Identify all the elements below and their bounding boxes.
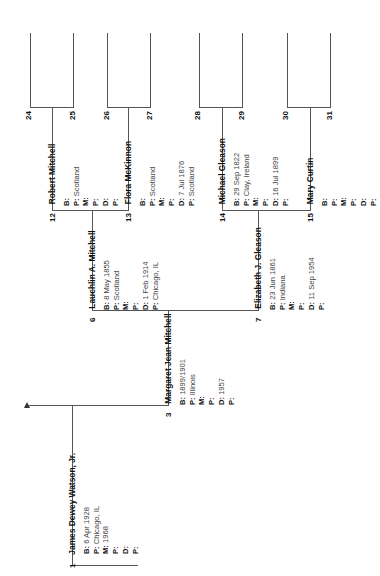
person-3[interactable]: 3 Margaret Jean Mitchell B: 1899/1901 P:… xyxy=(157,313,236,417)
slot-number: 30 xyxy=(281,111,290,120)
person-15[interactable]: 15 Mary Curtin B: P: M: P: D: P: xyxy=(299,158,378,222)
person-name: Margaret Jean Mitchell xyxy=(163,313,173,403)
slot-number: 29 xyxy=(237,111,246,120)
person-name: Elizabeth J. Gleason xyxy=(253,227,263,308)
person-name: Lauchlin A. Mitchell xyxy=(87,230,97,308)
line xyxy=(107,33,108,108)
person-name: Mary Curtin xyxy=(305,158,315,205)
person-14[interactable]: 14 Michael Gleason B: 29 Sep 1822 P: Cla… xyxy=(211,138,290,222)
person-1[interactable]: 1 James Dewey Watson, Jr. B: 6 Apr 1928 … xyxy=(61,453,140,568)
line xyxy=(73,33,74,108)
person-13[interactable]: 13 Flora McKinnon B: P: Scotland M: P: D… xyxy=(117,141,196,222)
line xyxy=(287,33,288,108)
line xyxy=(107,107,151,108)
slot-number: 24 xyxy=(24,111,33,120)
line xyxy=(330,33,331,108)
person-12[interactable]: 12 Robert Mitchell B: P: Scotland M: P: … xyxy=(41,144,120,222)
person-name: James Dewey Watson, Jr. xyxy=(67,453,77,555)
line xyxy=(242,33,243,108)
line xyxy=(150,33,151,108)
slot-number: 31 xyxy=(325,111,334,120)
person-7[interactable]: 7 Elizabeth J. Gleason B: 23 Jun 1861 P:… xyxy=(247,227,326,322)
person-name: Robert Mitchell xyxy=(47,144,57,205)
slot-number: 27 xyxy=(145,111,154,120)
slot-number: 26 xyxy=(102,111,111,120)
line xyxy=(199,107,243,108)
line xyxy=(287,107,331,108)
line xyxy=(28,405,169,406)
slot-number: 28 xyxy=(193,111,202,120)
line xyxy=(30,107,74,108)
person-name: Flora McKinnon xyxy=(123,141,133,204)
line xyxy=(199,33,200,108)
slot-number: 25 xyxy=(68,111,77,120)
line xyxy=(30,33,31,108)
person-6[interactable]: 6 Lauchlin A. Mitchell B: 8 May 1855 P: … xyxy=(81,230,160,322)
person-name: Michael Gleason xyxy=(217,138,227,204)
